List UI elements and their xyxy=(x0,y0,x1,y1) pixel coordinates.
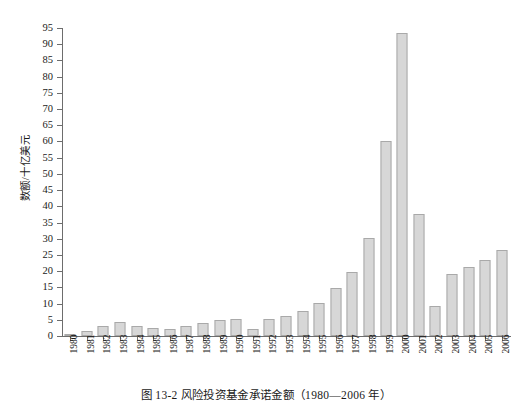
y-axis-tick-label: 85 xyxy=(43,55,54,66)
bar-slot: 1999 xyxy=(377,28,394,336)
bar-slot: 1984 xyxy=(128,28,145,336)
bar-slot: 2004 xyxy=(460,28,477,336)
bar xyxy=(446,274,457,336)
bar-slot: 1983 xyxy=(112,28,129,336)
y-axis-tick-label: 15 xyxy=(43,282,54,293)
x-axis-tick-label: 1989 xyxy=(220,335,230,354)
bar xyxy=(347,272,358,336)
bar-slot: 2000 xyxy=(394,28,411,336)
y-axis-tick-label: 45 xyxy=(43,185,54,196)
bar xyxy=(297,311,308,336)
plot-area: 05101520253035404550556065707580859095 1… xyxy=(62,28,510,336)
x-axis-tick-label: 1995 xyxy=(319,335,329,354)
x-axis-tick-label: 1990 xyxy=(236,335,246,354)
x-axis-tick-label: 1993 xyxy=(286,335,296,354)
bar xyxy=(380,141,391,336)
y-axis-tick-label: 65 xyxy=(43,120,54,131)
x-axis-tick-label: 1982 xyxy=(103,335,113,354)
bar-slot: 2005 xyxy=(477,28,494,336)
bar xyxy=(264,319,275,336)
bar xyxy=(280,316,291,336)
bar xyxy=(480,260,491,336)
y-axis-title: 数额/十亿美元 xyxy=(17,135,32,201)
bar-slot: 1982 xyxy=(95,28,112,336)
bar xyxy=(496,250,507,336)
figure-13-2: 数额/十亿美元 05101520253035404550556065707580… xyxy=(0,0,532,415)
bar-slot: 1996 xyxy=(327,28,344,336)
bar-slot: 1987 xyxy=(178,28,195,336)
bar-slot: 1997 xyxy=(344,28,361,336)
bar xyxy=(314,303,325,336)
x-axis-tick-label: 1984 xyxy=(137,335,147,354)
x-axis-tick-label: 1981 xyxy=(87,335,97,354)
x-axis-tick-label: 1994 xyxy=(303,335,313,354)
x-axis-tick-label: 1987 xyxy=(186,335,196,354)
y-axis-tick-label: 10 xyxy=(43,298,54,309)
x-axis-tick-label: 1991 xyxy=(253,335,263,354)
y-axis-tick: 0 xyxy=(57,336,62,337)
y-axis-tick-label: 80 xyxy=(43,71,54,82)
x-axis-tick-label: 1985 xyxy=(153,335,163,354)
bar-slot: 1994 xyxy=(294,28,311,336)
bar-slot: 2001 xyxy=(410,28,427,336)
bar-slot: 1998 xyxy=(361,28,378,336)
x-axis-tick-label: 1988 xyxy=(203,335,213,354)
bar xyxy=(430,306,441,336)
bar-slot: 1990 xyxy=(228,28,245,336)
bar-slot: 1995 xyxy=(311,28,328,336)
y-axis-tick-label: 30 xyxy=(43,233,54,244)
figure-caption: 图 13-2 风险投资基金承诺金额（1980—2006 年） xyxy=(0,386,532,402)
bar xyxy=(330,288,341,336)
bar-slot: 1980 xyxy=(62,28,79,336)
x-axis-tick-label: 2001 xyxy=(419,335,429,354)
y-axis-tick-label: 55 xyxy=(43,152,54,163)
bar-series: 1980198119821983198419851986198719881989… xyxy=(62,28,510,336)
y-axis-tick-label: 75 xyxy=(43,88,54,99)
bar-slot: 1988 xyxy=(195,28,212,336)
y-axis-tick-label: 50 xyxy=(43,169,54,180)
y-axis-tick-label: 35 xyxy=(43,217,54,228)
y-axis-tick-label: 95 xyxy=(43,23,54,34)
x-axis-tick-label: 1983 xyxy=(120,335,130,354)
bar-slot: 2006 xyxy=(493,28,510,336)
bar-slot: 1991 xyxy=(245,28,262,336)
x-axis-tick-label: 1999 xyxy=(386,335,396,354)
x-axis-tick-label: 2005 xyxy=(485,335,495,354)
y-axis-tick-label: 0 xyxy=(48,331,53,342)
bar-slot: 2002 xyxy=(427,28,444,336)
y-axis-tick-label: 25 xyxy=(43,250,54,261)
bar xyxy=(413,214,424,336)
y-axis-tick-label: 40 xyxy=(43,201,54,212)
bar-slot: 1992 xyxy=(261,28,278,336)
y-axis-tick-label: 20 xyxy=(43,266,54,277)
bar-slot: 1985 xyxy=(145,28,162,336)
bar-slot: 1993 xyxy=(278,28,295,336)
bar-slot: 1981 xyxy=(79,28,96,336)
y-axis-tick-label: 90 xyxy=(43,39,54,50)
y-axis-tick-label: 60 xyxy=(43,136,54,147)
bar-slot: 1989 xyxy=(211,28,228,336)
x-axis-tick-label: 2002 xyxy=(435,335,445,354)
bar xyxy=(463,267,474,336)
x-axis-tick-label: 1998 xyxy=(369,335,379,354)
x-axis-tick-label: 1992 xyxy=(269,335,279,354)
x-axis-tick-label: 2003 xyxy=(452,335,462,354)
x-axis-tick-label: 2000 xyxy=(402,335,412,354)
bar-slot: 1986 xyxy=(162,28,179,336)
x-axis-tick-label: 1997 xyxy=(352,335,362,354)
y-axis-tick-label: 5 xyxy=(48,315,53,326)
bar xyxy=(363,238,374,336)
x-axis-tick-label: 1996 xyxy=(336,335,346,354)
x-axis-tick-label: 2006 xyxy=(502,335,512,354)
x-axis-tick-label: 1986 xyxy=(170,335,180,354)
y-axis-tick-label: 70 xyxy=(43,104,54,115)
x-axis-tick-label: 2004 xyxy=(469,335,479,354)
bar-slot: 2003 xyxy=(444,28,461,336)
x-axis-tick-label: 1980 xyxy=(70,335,80,354)
bar xyxy=(397,33,408,336)
